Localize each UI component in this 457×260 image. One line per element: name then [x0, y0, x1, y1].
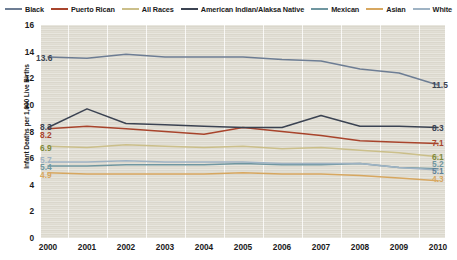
legend-item-label: Puerto Rican	[71, 5, 115, 14]
value-label-left: 8.2	[40, 130, 52, 140]
legend-item: Asian	[366, 5, 405, 14]
x-axis-tick-label: 2005	[223, 242, 263, 252]
value-label-left: 6.9	[40, 143, 52, 153]
legend-swatch-icon	[51, 8, 68, 10]
legend-item: Mexican	[311, 5, 359, 14]
legend-item: American Indian/Alaksa Native	[181, 5, 304, 14]
value-label-left: 13.6	[36, 53, 52, 63]
chart-legend: BlackPuerto RicanAll RacesAmerican India…	[0, 2, 457, 16]
x-axis-tick-label: 2002	[106, 242, 146, 252]
y-axis-tick-label: 4	[12, 180, 34, 190]
value-label-right: 4.3	[432, 174, 444, 184]
legend-item-label: Black	[25, 5, 44, 14]
series-line	[48, 109, 438, 128]
x-axis-tick-label: 2000	[28, 242, 68, 252]
y-axis-tick-label: 12	[12, 73, 34, 83]
y-axis-tick-label: 6	[12, 153, 34, 163]
legend-item: Puerto Rican	[51, 5, 115, 14]
plot-area	[41, 25, 445, 238]
value-label-right: 8.3	[432, 123, 444, 133]
chart-root: BlackPuerto RicanAll RacesAmerican India…	[0, 0, 457, 260]
legend-swatch-icon	[366, 8, 383, 10]
legend-item: White	[413, 5, 452, 14]
series-line	[48, 173, 438, 181]
y-axis-tick-label: 8	[12, 127, 34, 137]
x-axis-tick-label: 2001	[67, 242, 107, 252]
value-label-left: 4.9	[40, 170, 52, 180]
legend-swatch-icon	[413, 8, 430, 10]
legend-swatch-icon	[311, 8, 328, 10]
series-line	[48, 126, 438, 143]
y-axis-tick-label: 10	[12, 100, 34, 110]
legend-item-label: Mexican	[331, 5, 359, 14]
series-line	[48, 54, 438, 85]
series-lines	[41, 25, 445, 238]
legend-item: All Races	[122, 5, 174, 14]
value-label-right: 11.5	[432, 80, 448, 90]
y-axis-tick-label: 14	[12, 47, 34, 57]
x-axis-tick-label: 2003	[145, 242, 185, 252]
legend-swatch-icon	[5, 8, 22, 10]
legend-swatch-icon	[181, 8, 198, 10]
legend-item-label: American Indian/Alaksa Native	[201, 5, 304, 14]
y-axis-title: Infant Deaths per 1,000 Live Births	[23, 42, 30, 192]
y-axis-tick-label: 2	[12, 206, 34, 216]
x-axis-tick-label: 2006	[262, 242, 302, 252]
x-axis-tick-label: 2004	[184, 242, 224, 252]
legend-item-label: White	[433, 5, 452, 14]
series-line	[48, 145, 438, 157]
y-axis-tick-label: 16	[12, 20, 34, 30]
x-axis-tick-label: 2008	[340, 242, 380, 252]
legend-item-label: All Races	[142, 5, 174, 14]
legend-item: Black	[5, 5, 44, 14]
legend-swatch-icon	[122, 8, 139, 10]
legend-item-label: Asian	[386, 5, 405, 14]
value-label-right: 7.1	[432, 138, 444, 148]
x-axis-tick-label: 2009	[379, 242, 419, 252]
x-axis-tick-label: 2007	[301, 242, 341, 252]
x-axis-tick-label: 2010	[418, 242, 457, 252]
